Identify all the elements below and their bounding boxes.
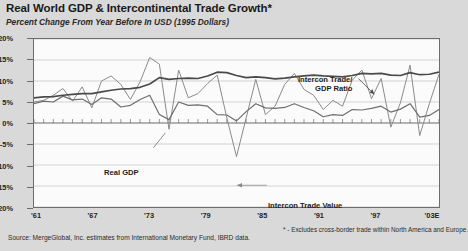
y-axis-label: -10% [0,161,13,170]
annotation-intercon-trade-value: Intercon Trade Value [268,202,342,211]
x-axis-label: '67 [88,211,98,220]
plot-area [33,38,440,208]
plot-svg [34,39,439,207]
footnote: * - Excludes cross-border trade within N… [283,226,468,233]
y-axis-label: -5% [0,140,13,149]
y-axis-label: -15% [0,182,13,191]
y-axis-label: -20% [0,204,13,213]
x-axis-label: '61 [31,211,41,220]
x-axis-label: '91 [314,211,324,220]
x-axis-label: '03E [425,211,440,220]
source-note: Source: MergeGlobal, Inc. estimates from… [8,234,250,241]
data-series-group [34,57,439,156]
y-axis-label: 15% [0,55,13,64]
x-axis-label: '73 [144,211,154,220]
leader-ratio-arrow [370,89,374,94]
y-axis-label: 20% [0,34,13,43]
leader-gdp [153,133,165,148]
chart-container: 20% 15% 10% 5% 0% -5% -10% -15% -20% [6,31,448,223]
annotation-real-gdp: Real GDP [104,169,139,178]
leader-value-arrow [237,183,242,187]
x-axis-label: '97 [370,211,380,220]
y-axis-tick [27,208,33,209]
x-axis-label: '79 [201,211,211,220]
chart-subtitle: Percent Change From Year Before In USD (… [6,17,229,27]
x-axis-label: '85 [257,211,267,220]
y-axis-label: 10% [0,76,13,85]
chart-title: Real World GDP & Intercontinental Trade … [6,2,272,14]
annotation-line-2: GDP Ratio [298,85,352,94]
y-axis-label: 5% [0,97,13,106]
annotation-intercon-trade-gdp-ratio: Intercon Trade/ GDP Ratio [298,76,352,93]
y-axis-label: 0% [0,119,13,128]
annotation-leaders [153,79,374,188]
